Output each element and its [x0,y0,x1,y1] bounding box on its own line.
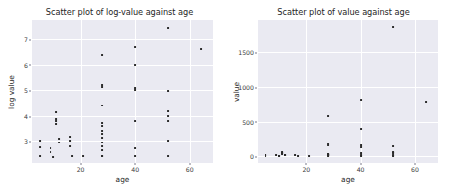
data-point [278,155,280,157]
gridline-vertical [81,20,82,163]
y-tick-label: 3 [0,138,31,145]
data-point [69,136,71,138]
gridline-horizontal [32,90,213,91]
data-point [392,145,394,147]
data-point [39,146,41,148]
gridline-horizontal [32,65,213,66]
y-tick-label: 4 [0,112,31,119]
data-point [392,26,394,28]
gridline-horizontal [258,87,438,88]
x-tick-mark [189,163,190,165]
data-point [39,155,41,157]
x-tick-label: 20 [77,166,85,173]
data-point [69,145,71,147]
scatter-plot-figure: Scatter plot of log-value against age ag… [0,0,450,193]
data-point [167,90,169,92]
data-point [134,64,136,66]
data-point [134,46,136,48]
data-point [71,155,73,157]
data-point [327,145,329,147]
data-point [101,54,103,56]
data-point [39,140,41,142]
data-point [101,145,103,147]
y-tick-label: 1500 [225,49,257,56]
left-x-axis-label: age [116,175,130,184]
data-point [52,156,54,158]
x-tick-label: 60 [186,166,194,173]
x-tick-label: 40 [131,166,139,173]
x-tick-mark [306,163,307,165]
right-scatter-panel: Scatter plot of value against age age va… [225,0,450,193]
data-point [327,155,329,157]
data-point [360,155,362,157]
y-tick-label: 500 [225,118,257,125]
gridline-horizontal [258,122,438,123]
x-tick-label: 40 [357,166,365,173]
x-tick-mark [414,163,415,165]
data-point [200,48,202,50]
data-point [360,128,362,130]
data-point [50,151,52,153]
data-point [297,155,299,157]
data-point [134,155,136,157]
data-point [101,155,103,157]
data-point [58,138,60,140]
data-point [360,146,362,148]
x-tick-label: 60 [411,166,419,173]
right-chart-title: Scatter plot of value against age [225,7,450,17]
data-point [167,27,169,29]
data-point [327,115,329,117]
data-point [167,155,169,157]
data-point [167,140,169,142]
data-point [284,154,286,156]
data-point [101,122,103,124]
x-tick-label: 20 [302,166,310,173]
gridline-horizontal [258,52,438,53]
data-point [167,115,169,117]
data-point [101,133,103,135]
data-point [295,154,297,156]
gridline-horizontal [258,156,438,157]
data-point [425,101,427,103]
gridline-vertical [190,20,191,163]
data-point [50,147,52,149]
x-tick-mark [80,163,81,165]
data-point [392,155,394,157]
data-point [101,105,103,107]
data-point [134,89,136,91]
gridline-vertical [415,20,416,163]
left-scatter-panel: Scatter plot of log-value against age ag… [0,0,225,193]
data-point [360,99,362,101]
right-x-axis-label: age [341,175,355,184]
data-point [281,153,283,155]
data-point [55,120,57,122]
gridline-horizontal [32,116,213,117]
data-point [69,140,71,142]
data-point [101,125,103,127]
gridline-vertical [135,20,136,163]
data-point [167,120,169,122]
y-tick-label: 7 [0,36,31,43]
left-chart-title: Scatter plot of log-value against age [0,7,225,17]
gridline-vertical [306,20,307,163]
data-point [82,155,84,157]
data-point [101,142,103,144]
x-tick-mark [135,163,136,165]
data-point [55,123,57,125]
data-point [134,120,136,122]
data-point [134,147,136,149]
data-point [167,110,169,112]
left-plot-area [32,20,213,163]
data-point [308,155,310,157]
gridline-horizontal [32,39,213,40]
gridline-vertical [361,20,362,163]
right-plot-area [258,20,438,163]
y-tick-label: 0 [225,153,257,160]
y-tick-label: 1000 [225,83,257,90]
y-tick-label: 5 [0,87,31,94]
data-point [101,137,103,139]
x-tick-mark [360,163,361,165]
data-point [55,111,57,113]
data-point [101,149,103,151]
y-tick-label: 6 [0,61,31,68]
